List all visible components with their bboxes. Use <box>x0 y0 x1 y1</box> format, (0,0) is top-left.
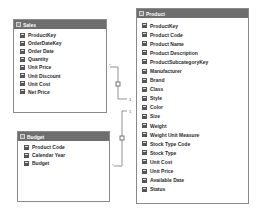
table-header-budget[interactable]: Budget <box>18 132 109 141</box>
column-icon <box>20 65 25 70</box>
table-icon <box>20 134 25 139</box>
column-row[interactable]: Product Name <box>137 39 248 48</box>
column-row[interactable]: Net Price <box>14 88 106 96</box>
column-name: Order Date <box>28 48 54 54</box>
column-row[interactable]: Product Code <box>18 143 109 151</box>
column-row[interactable]: Unit Cost <box>14 80 106 88</box>
column-row[interactable]: Order Date <box>14 47 106 55</box>
column-name: OrderDateKey <box>28 40 62 46</box>
column-name: Unit Cost <box>28 81 50 87</box>
column-name: Stock Type <box>150 150 176 156</box>
column-icon <box>24 161 29 166</box>
column-row[interactable]: Stock Type Code <box>137 139 248 148</box>
column-name: Style <box>150 95 162 101</box>
column-icon <box>142 32 147 37</box>
table-icon <box>16 22 21 27</box>
table-header-sales[interactable]: Sales <box>14 20 106 29</box>
table-title: Sales <box>23 22 36 28</box>
column-name: Unit Cost <box>150 159 172 165</box>
column-icon <box>24 153 29 158</box>
column-row[interactable]: Weight <box>137 121 248 130</box>
column-icon <box>142 50 147 55</box>
column-name: ProductSubcategoryKey <box>150 59 208 65</box>
column-row[interactable]: Budget <box>18 159 109 167</box>
column-row[interactable]: Brand <box>137 76 248 85</box>
table-product[interactable]: Product ProductKey Product Code Product … <box>136 8 249 204</box>
table-title: Product <box>146 11 165 17</box>
column-row[interactable]: Unit Price <box>137 167 248 176</box>
column-name: Product Code <box>32 144 65 150</box>
column-row[interactable]: Product Description <box>137 48 248 57</box>
column-icon <box>142 59 147 64</box>
column-icon <box>142 187 147 192</box>
cardinality-many-sales: * <box>109 63 111 68</box>
column-name: Product Description <box>150 50 198 56</box>
column-row[interactable]: Unit Price <box>14 63 106 71</box>
column-row[interactable]: Weight Unit Measure <box>137 130 248 139</box>
column-row[interactable]: Unit Discount <box>14 71 106 79</box>
column-row[interactable]: Unit Cost <box>137 157 248 166</box>
column-icon <box>20 33 25 38</box>
column-name: Product Code <box>150 32 183 38</box>
column-name: Class <box>150 86 163 92</box>
column-icon <box>142 96 147 101</box>
column-name: Quantity <box>28 56 48 62</box>
column-name: Calendar Year <box>32 152 65 158</box>
table-icon <box>139 11 144 16</box>
column-row[interactable]: ProductKey <box>14 31 106 39</box>
column-row[interactable]: Class <box>137 85 248 94</box>
column-row[interactable]: Manufacturer <box>137 66 248 75</box>
column-name: Unit Price <box>150 168 173 174</box>
column-name: Net Price <box>28 89 50 95</box>
column-icon <box>20 57 25 62</box>
column-icon <box>20 49 25 54</box>
column-row[interactable]: Color <box>137 103 248 112</box>
column-icon <box>142 178 147 183</box>
column-row[interactable]: Style <box>137 94 248 103</box>
column-name: Product Name <box>150 41 184 47</box>
column-icon <box>24 145 29 150</box>
cardinality-one-budget: 1 <box>129 109 131 114</box>
column-name: Weight <box>150 123 167 129</box>
cardinality-one-sales: 1 <box>129 97 131 102</box>
cardinality-many-budget: * <box>112 163 114 168</box>
column-row[interactable]: ProductSubcategoryKey <box>137 57 248 66</box>
column-icon <box>142 69 147 74</box>
table-header-product[interactable]: Product <box>137 9 248 18</box>
column-row[interactable]: OrderDateKey <box>14 39 106 47</box>
column-icon <box>142 78 147 83</box>
column-icon <box>142 141 147 146</box>
column-icon <box>20 89 25 94</box>
column-row[interactable]: Quantity <box>14 55 106 63</box>
column-icon <box>142 123 147 128</box>
column-icon <box>142 87 147 92</box>
column-name: Weight Unit Measure <box>150 132 199 138</box>
column-name: Available Date <box>150 177 184 183</box>
column-icon <box>142 41 147 46</box>
column-icon <box>20 81 25 86</box>
column-row[interactable]: Status <box>137 185 248 194</box>
column-row[interactable]: Product Code <box>137 30 248 39</box>
column-name: ProductKey <box>150 23 178 29</box>
column-icon <box>142 105 147 110</box>
column-name: Manufacturer <box>150 68 182 74</box>
column-name: Size <box>150 113 160 119</box>
column-icon <box>142 159 147 164</box>
column-name: Budget <box>32 160 49 166</box>
column-icon <box>142 114 147 119</box>
column-name: Unit Price <box>28 64 51 70</box>
column-icon <box>142 132 147 137</box>
table-sales[interactable]: Sales ProductKey OrderDateKey Order Date… <box>13 19 107 113</box>
column-icon <box>20 73 25 78</box>
column-row[interactable]: Size <box>137 112 248 121</box>
column-row[interactable]: Stock Type <box>137 148 248 157</box>
column-row[interactable]: Calendar Year <box>18 151 109 159</box>
column-icon <box>142 150 147 155</box>
table-title: Budget <box>27 134 44 140</box>
column-row[interactable]: Available Date <box>137 176 248 185</box>
table-budget[interactable]: Budget Product Code Calendar Year Budget <box>17 131 110 202</box>
column-name: Stock Type Code <box>150 141 190 147</box>
column-row[interactable]: ProductKey <box>137 21 248 30</box>
column-icon <box>142 169 147 174</box>
column-name: Brand <box>150 77 164 83</box>
